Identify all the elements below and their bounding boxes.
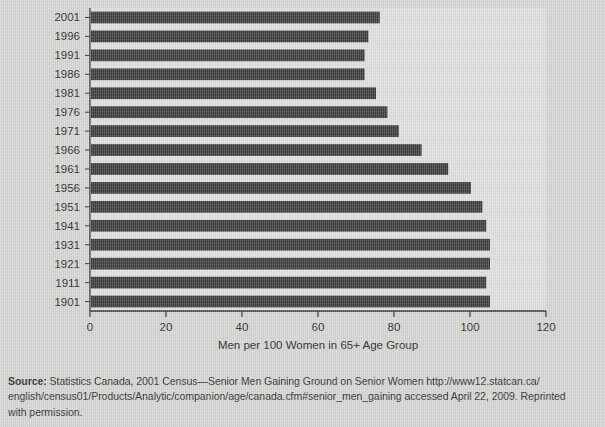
y-axis-tick-label: 1996: [54, 30, 80, 42]
x-axis-tick-label: 60: [312, 321, 325, 333]
source-line-1: Source: Statistics Canada, 2001 Census—S…: [8, 374, 598, 389]
source-note: Source: Statistics Canada, 2001 Census—S…: [8, 374, 598, 420]
bar: [91, 201, 482, 213]
x-axis-title: Men per 100 Women in 65+ Age Group: [218, 339, 418, 351]
y-axis-tick-label: 1921: [54, 258, 80, 270]
bar: [91, 144, 422, 156]
y-axis-tick-label: 1951: [54, 201, 80, 213]
y-axis-tick-label: 1911: [55, 277, 80, 289]
source-line-1-text: Statistics Canada, 2001 Census—Senior Me…: [47, 375, 540, 387]
x-axis-tick-label: 80: [388, 321, 401, 333]
source-label: Source:: [8, 375, 47, 387]
x-axis-tick-label: 100: [460, 321, 479, 333]
bar: [91, 296, 490, 308]
y-axis-tick-label: 1901: [54, 296, 80, 308]
bar: [91, 125, 399, 137]
x-axis-tick-label: 40: [236, 321, 249, 333]
x-axis-tick-label: 0: [87, 321, 93, 333]
y-axis-tick-label: 1991: [54, 49, 80, 61]
source-line-3: with permission.: [8, 405, 598, 420]
y-axis-tick-label: 1971: [54, 125, 80, 137]
source-line-2: english/census01/Products/Analytic/compa…: [8, 389, 598, 404]
bar: [91, 106, 387, 118]
y-axis-tick-label: 1956: [54, 182, 80, 194]
bar: [91, 258, 490, 270]
bar: [91, 182, 471, 194]
y-axis-tick-label: 2001: [54, 11, 80, 23]
y-axis-tick-label: 1966: [54, 144, 80, 156]
chart-canvas: 2001199619911986198119761971196619611956…: [0, 0, 605, 360]
bar-chart-figure: 2001199619911986198119761971196619611956…: [0, 0, 605, 360]
y-axis-tick-label: 1941: [54, 220, 80, 232]
bar: [91, 163, 448, 175]
y-axis-tick-label: 1976: [54, 106, 80, 118]
y-axis-tick-label: 1961: [54, 163, 80, 175]
bar: [91, 49, 365, 61]
y-axis-tick-label: 1931: [54, 239, 80, 251]
bar: [91, 12, 380, 24]
x-axis-tick-label: 20: [160, 321, 173, 333]
y-axis-tick-label: 1986: [54, 68, 80, 80]
x-axis-tick-label: 120: [536, 321, 555, 333]
bar: [91, 87, 376, 99]
y-axis-tick-label: 1981: [54, 87, 80, 99]
bar: [91, 31, 368, 43]
bar: [91, 239, 490, 251]
bar: [91, 220, 486, 232]
bar: [91, 277, 486, 289]
bar: [91, 68, 365, 80]
